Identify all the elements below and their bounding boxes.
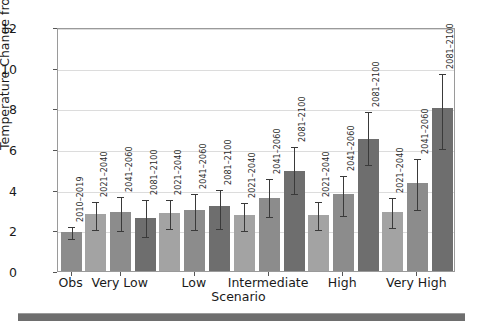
error-bar <box>343 176 344 216</box>
x-tick-label: Low <box>182 275 207 290</box>
error-bar-cap <box>315 202 322 203</box>
x-tick-mark <box>416 272 417 276</box>
bar-period-label: 2021–2040 <box>248 152 257 198</box>
error-bar <box>220 190 221 230</box>
bar-period-label: 2081–2100 <box>150 149 159 195</box>
error-bar-cap <box>266 179 273 180</box>
x-tick-mark <box>194 272 195 276</box>
x-tick-mark <box>342 272 343 276</box>
error-bar-cap <box>166 229 173 230</box>
gridline <box>58 70 454 71</box>
bar-period-label: 2081–2100 <box>224 139 233 185</box>
x-axis-title: Scenario <box>0 289 477 304</box>
gridline <box>58 110 454 111</box>
error-bar-cap <box>266 217 273 218</box>
error-bar-cap <box>191 230 198 231</box>
bar-period-label: 2041–2060 <box>125 146 134 192</box>
error-bar <box>442 74 443 149</box>
error-bar <box>392 198 393 229</box>
y-tick-label: 6 <box>0 143 17 158</box>
error-bar <box>318 202 319 230</box>
bar-period-label: 2041–2060 <box>421 109 430 155</box>
bar-period-label: 2041–2060 <box>347 126 356 172</box>
error-bar-cap <box>241 231 248 232</box>
error-bar-cap <box>166 200 173 201</box>
error-bar-cap <box>216 229 223 230</box>
bar-period-label: 2021–2040 <box>322 151 331 197</box>
bar-period-label: 2081–2100 <box>446 23 455 69</box>
bar-period-label: 2021–2040 <box>100 151 109 197</box>
bar-period-label: 2081–2100 <box>372 62 381 108</box>
x-tick-mark <box>268 272 269 276</box>
error-bar-cap <box>68 239 75 240</box>
x-tick-label: Very Low <box>92 275 148 290</box>
x-tick-label: Intermediate <box>228 275 309 290</box>
error-bar-cap <box>92 202 99 203</box>
error-bar <box>244 203 245 231</box>
bar-period-label: 2081–2100 <box>298 96 307 142</box>
error-bar-cap <box>191 194 198 195</box>
error-bar-cap <box>414 159 421 160</box>
error-bar <box>96 202 97 230</box>
error-bar-cap <box>340 176 347 177</box>
y-tick-label: 12 <box>0 21 17 36</box>
error-bar <box>170 200 171 229</box>
y-tick-label: 8 <box>0 102 17 117</box>
error-bar-cap <box>142 200 149 201</box>
error-bar-cap <box>315 230 322 231</box>
bottom-band <box>18 313 465 321</box>
y-tick-label: 4 <box>0 183 17 198</box>
error-bar-cap <box>68 227 75 228</box>
error-bar <box>368 112 369 165</box>
chart-figure: Temperature Change from 1850–1900 (°F) 0… <box>0 0 477 327</box>
gridline <box>58 29 454 30</box>
error-bar-cap <box>365 165 372 166</box>
plot-area: 2010–20192021–20402041–20602081–21002021… <box>57 28 455 272</box>
error-bar-cap <box>439 149 446 150</box>
error-bar-cap <box>439 74 446 75</box>
x-tick-mark <box>120 272 121 276</box>
error-bar <box>417 159 418 210</box>
error-bar-cap <box>291 147 298 148</box>
error-bar-cap <box>389 198 396 199</box>
error-bar-cap <box>117 231 124 232</box>
error-bar-cap <box>365 112 372 113</box>
y-tick-label: 10 <box>0 61 17 76</box>
error-bar-cap <box>291 194 298 195</box>
bar-period-label: 2041–2060 <box>273 129 282 175</box>
error-bar <box>72 227 73 239</box>
x-tick-label: High <box>328 275 357 290</box>
error-bar-cap <box>414 210 421 211</box>
error-bar <box>195 194 196 231</box>
error-bar-cap <box>340 216 347 217</box>
x-tick-label: Very High <box>386 275 447 290</box>
x-tick-label: Obs <box>58 275 82 290</box>
error-bar <box>121 197 122 232</box>
error-bar-cap <box>92 230 99 231</box>
bar-period-label: 2021–2040 <box>174 149 183 195</box>
y-tick-mark <box>53 272 57 273</box>
y-tick-label: 0 <box>0 265 17 280</box>
error-bar <box>269 179 270 217</box>
bar-period-label: 2021–2040 <box>396 147 405 193</box>
y-tick-label: 2 <box>0 224 17 239</box>
error-bar-cap <box>216 190 223 191</box>
error-bar-cap <box>389 228 396 229</box>
error-bar <box>294 147 295 194</box>
bar-period-label: 2041–2060 <box>199 143 208 189</box>
error-bar <box>146 200 147 238</box>
bar-period-label: 2010–2019 <box>76 177 85 223</box>
error-bar-cap <box>117 197 124 198</box>
error-bar-cap <box>142 237 149 238</box>
x-tick-mark <box>71 272 72 276</box>
error-bar-cap <box>241 203 248 204</box>
